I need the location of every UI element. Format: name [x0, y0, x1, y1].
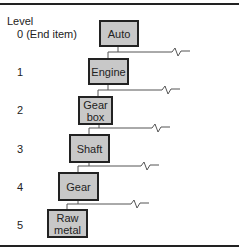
item-box-gear: Gear [58, 172, 99, 201]
item-box-engine: Engine [88, 58, 129, 85]
item-box-gear-box: Gear box [78, 96, 113, 125]
item-box-auto: Auto [99, 20, 139, 47]
item-box-raw-metal: Raw metal [47, 209, 88, 238]
item-box-shaft: Shaft [69, 134, 110, 163]
